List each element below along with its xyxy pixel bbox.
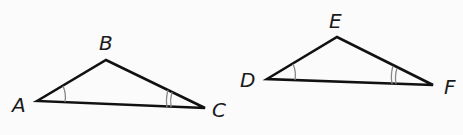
vertex-label-a: A — [10, 93, 26, 117]
angle-a-arc — [63, 86, 65, 102]
angle-d-arc — [293, 64, 295, 80]
vertex-label-b: B — [99, 31, 113, 55]
angle-f-arc-outer — [395, 68, 397, 84]
vertex-label-f: F — [444, 75, 456, 99]
vertex-label-e: E — [329, 9, 342, 33]
triangle-abc — [37, 60, 205, 108]
diagram-svg: A B C D E F — [0, 0, 463, 135]
similar-triangles-diagram: A B C D E F — [0, 0, 463, 135]
angle-f-arc-inner — [391, 66, 393, 84]
angle-c-arc-inner — [166, 90, 168, 107]
angle-c-arc-outer — [171, 92, 172, 107]
vertex-label-d: D — [240, 68, 255, 92]
vertex-label-c: C — [212, 98, 226, 122]
triangle-def — [267, 37, 433, 85]
